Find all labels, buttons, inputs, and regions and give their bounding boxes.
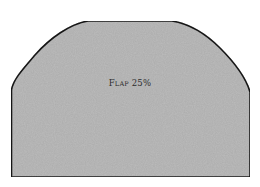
flap-label-rest: LAP	[115, 80, 129, 88]
flap-shape	[0, 0, 260, 187]
flap-label-value: 25%	[132, 78, 152, 88]
flap-outline	[12, 21, 251, 177]
flap-label: FLAP 25%	[0, 78, 260, 88]
diagram-canvas: FLAP 25%	[0, 0, 260, 187]
